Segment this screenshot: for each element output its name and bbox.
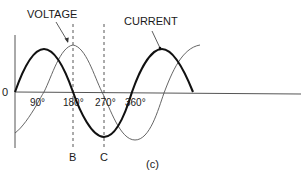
voltage-arrowhead-icon xyxy=(65,38,69,44)
current-pointer-arrow xyxy=(152,31,160,48)
origin-label: 0 xyxy=(2,86,8,98)
tick-270: 270° xyxy=(95,97,116,108)
tick-180: 180° xyxy=(63,97,84,108)
x-axis xyxy=(15,92,301,94)
voltage-label: VOLTAGE xyxy=(27,8,77,20)
tick-360: 360° xyxy=(125,97,146,108)
marker-b-label: B xyxy=(69,151,76,163)
tick-90: 90° xyxy=(30,97,45,108)
marker-c-label: C xyxy=(100,151,108,163)
current-label: CURRENT xyxy=(124,15,178,27)
panel-label: (c) xyxy=(146,158,159,170)
phase-diagram: VOLTAGE CURRENT 0 90° 180° 270° 360° B C… xyxy=(0,0,301,172)
current-arrowhead-icon xyxy=(159,47,162,50)
